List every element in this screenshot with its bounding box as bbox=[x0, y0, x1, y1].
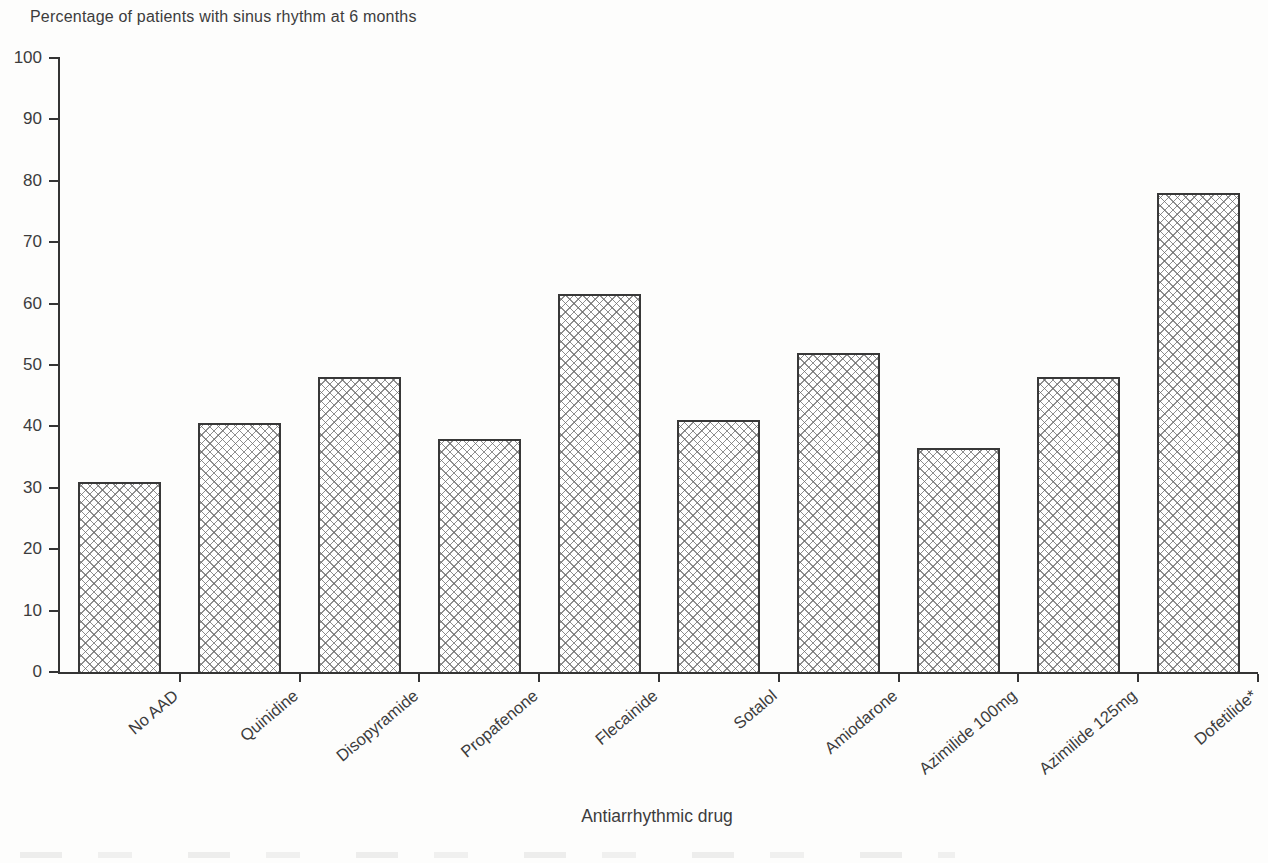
y-tick-label-30: 30 bbox=[0, 478, 42, 498]
bar-quinidine bbox=[198, 423, 281, 672]
x-tick-6 bbox=[778, 674, 780, 682]
y-tick-label-0: 0 bbox=[0, 662, 42, 682]
x-tick-8 bbox=[1017, 674, 1019, 682]
y-tick-40 bbox=[49, 425, 60, 427]
x-category-label-amiodarone: Amiodarone bbox=[821, 686, 901, 758]
cropped-caption-artifact bbox=[20, 852, 955, 858]
x-tick-2 bbox=[299, 674, 301, 682]
x-category-label-disopyramide: Disopyramide bbox=[332, 686, 421, 765]
x-tick-10 bbox=[1257, 674, 1259, 682]
x-category-label-azimilide-125mg: Azimilide 125mg bbox=[1036, 686, 1141, 778]
x-tick-9 bbox=[1137, 674, 1139, 682]
y-tick-60 bbox=[49, 303, 60, 305]
y-tick-100 bbox=[49, 57, 60, 59]
x-category-label-no-aad: No AAD bbox=[125, 686, 182, 738]
y-tick-label-90: 90 bbox=[0, 109, 42, 129]
x-tick-1 bbox=[179, 674, 181, 682]
x-tick-5 bbox=[658, 674, 660, 682]
x-tick-7 bbox=[898, 674, 900, 682]
y-tick-0 bbox=[49, 671, 60, 673]
bar-flecainide bbox=[558, 294, 641, 672]
x-category-label-sotalol: Sotalol bbox=[730, 686, 781, 733]
x-category-label-flecainide: Flecainide bbox=[591, 686, 661, 749]
y-tick-90 bbox=[49, 118, 60, 120]
chart-title: Percentage of patients with sinus rhythm… bbox=[30, 8, 417, 26]
bar-azimilide-125mg bbox=[1037, 377, 1120, 672]
x-category-label-azimilide-100mg: Azimilide 100mg bbox=[916, 686, 1021, 778]
x-tick-4 bbox=[538, 674, 540, 682]
y-tick-label-100: 100 bbox=[0, 48, 42, 68]
bar-no-aad bbox=[78, 482, 161, 672]
y-tick-50 bbox=[49, 364, 60, 366]
x-axis-title: Antiarrhythmic drug bbox=[58, 806, 1256, 827]
bar-azimilide-100mg bbox=[917, 448, 1000, 672]
y-tick-80 bbox=[49, 180, 60, 182]
y-tick-70 bbox=[49, 241, 60, 243]
x-category-label-dofetilide: Dofetilide* bbox=[1190, 686, 1260, 749]
figure: Percentage of patients with sinus rhythm… bbox=[0, 0, 1268, 863]
x-tick-3 bbox=[418, 674, 420, 682]
y-tick-label-10: 10 bbox=[0, 601, 42, 621]
y-tick-20 bbox=[49, 548, 60, 550]
y-tick-30 bbox=[49, 487, 60, 489]
x-category-label-propafenone: Propafenone bbox=[457, 686, 542, 761]
bar-sotalol bbox=[677, 420, 760, 672]
y-tick-label-60: 60 bbox=[0, 294, 42, 314]
bar-disopyramide bbox=[318, 377, 401, 672]
plot-area: 0102030405060708090100No AADQuinidineDis… bbox=[58, 58, 1258, 674]
y-tick-label-40: 40 bbox=[0, 416, 42, 436]
x-category-label-quinidine: Quinidine bbox=[236, 686, 302, 745]
bar-propafenone bbox=[438, 439, 521, 672]
bar-dofetilide bbox=[1157, 193, 1240, 672]
y-tick-label-70: 70 bbox=[0, 232, 42, 252]
y-tick-label-80: 80 bbox=[0, 171, 42, 191]
y-tick-label-50: 50 bbox=[0, 355, 42, 375]
bar-amiodarone bbox=[797, 353, 880, 672]
y-tick-10 bbox=[49, 610, 60, 612]
y-tick-label-20: 20 bbox=[0, 539, 42, 559]
